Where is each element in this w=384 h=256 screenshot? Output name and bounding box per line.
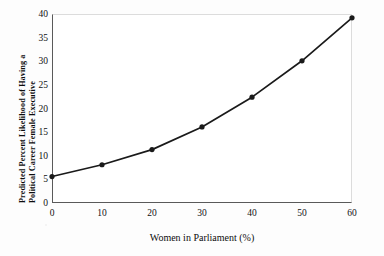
data-point-40 (249, 95, 254, 100)
chart-figure: 40 35 30 25 20 15 10 5 0 0 10 20 30 40 5… (0, 0, 384, 256)
screenshot-page: 40 35 30 25 20 15 10 5 0 0 10 20 30 40 5… (0, 0, 384, 256)
data-point-50 (299, 58, 304, 63)
series-predicted-likelihood (49, 15, 354, 179)
series-line (52, 18, 352, 177)
data-point-0 (49, 174, 54, 179)
data-point-60 (349, 15, 354, 20)
data-point-10 (99, 162, 104, 167)
data-point-20 (149, 147, 154, 152)
data-point-30 (199, 124, 204, 129)
series-layer (0, 0, 384, 256)
series-markers (49, 15, 354, 179)
